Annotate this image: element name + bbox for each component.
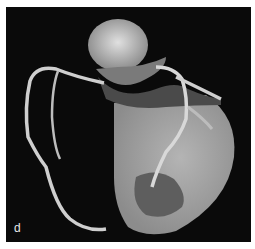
heart-rendering xyxy=(6,7,251,242)
panel-label: d xyxy=(14,222,21,234)
image-panel: d xyxy=(6,7,251,242)
